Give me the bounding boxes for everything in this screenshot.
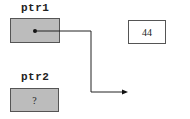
pointer-arrow xyxy=(0,0,190,119)
arrowhead-icon xyxy=(122,90,128,95)
arrow-line xyxy=(35,31,124,92)
